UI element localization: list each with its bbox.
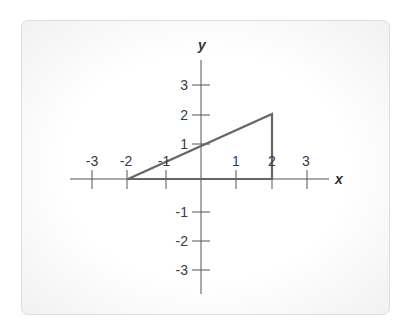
y-tick-label: -2 [176,233,189,249]
x-axis-label: x [334,171,344,187]
y-tick-label: 2 [180,107,188,123]
y-tick-label: 1 [180,136,188,152]
y-axis-label: y [197,37,207,53]
y-tick-label: -3 [176,262,189,278]
x-tick-label: 3 [302,153,310,169]
y-tick-label: -1 [176,204,189,220]
x-tick-label: 1 [232,153,240,169]
coordinate-plane: -3 -2 -1 1 2 3 3 2 1 -1 -2 -3 x y [0,0,409,331]
x-tick-label: -3 [86,153,99,169]
y-tick-label: 3 [180,77,188,93]
x-tick-label: 2 [268,153,276,169]
x-tick-label: -2 [120,153,133,169]
triangle [128,114,272,179]
x-tick-label: -1 [158,153,171,169]
